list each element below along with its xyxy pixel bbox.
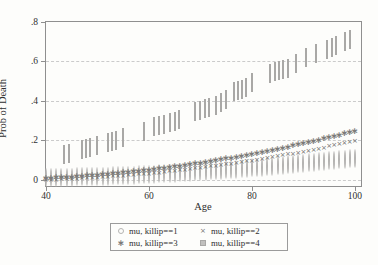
data-point xyxy=(274,63,276,81)
y-axis-title: Prob of Death xyxy=(0,69,8,149)
data-point xyxy=(96,137,98,155)
data-point xyxy=(287,60,289,78)
data-point xyxy=(323,153,325,171)
data-point xyxy=(344,33,346,51)
y-tick xyxy=(41,140,45,141)
data-point xyxy=(85,140,87,158)
data-point xyxy=(81,141,83,159)
data-point xyxy=(241,81,243,99)
data-point xyxy=(89,139,91,157)
y-tick xyxy=(41,101,45,102)
x-axis-title: Age xyxy=(110,201,296,212)
data-point xyxy=(122,129,124,147)
data-point xyxy=(153,118,155,136)
data-point xyxy=(204,100,206,118)
data-point xyxy=(333,152,335,170)
data-point xyxy=(158,117,160,135)
data-point xyxy=(174,113,176,131)
square-marker-icon xyxy=(199,240,207,246)
data-point xyxy=(115,132,117,150)
data-point xyxy=(302,155,304,173)
legend-label: mu, killip==4 xyxy=(211,238,260,249)
data-point xyxy=(305,49,307,67)
data-point xyxy=(349,31,351,49)
data-point xyxy=(225,91,227,109)
legend-item-killip2: × mu, killip==2 xyxy=(199,226,281,237)
data-point xyxy=(220,94,222,112)
data-point xyxy=(344,151,346,169)
data-point xyxy=(143,123,145,141)
data-point xyxy=(215,97,217,115)
y-tick-label: .2 xyxy=(18,135,38,145)
data-point xyxy=(233,83,235,101)
data-point xyxy=(318,153,320,171)
data-point xyxy=(328,152,330,170)
data-point: ∗ xyxy=(351,120,359,138)
x-marker-icon: × xyxy=(199,228,207,235)
data-point xyxy=(349,150,351,168)
data-point xyxy=(178,111,180,129)
data-point xyxy=(194,103,196,121)
circle-marker-icon xyxy=(117,228,125,234)
y-tick-label: .8 xyxy=(18,17,38,27)
y-tick xyxy=(41,22,45,23)
legend-item-killip1: mu, killip==1 xyxy=(117,226,199,237)
data-point xyxy=(68,145,70,163)
x-tick-label: 100 xyxy=(343,191,367,201)
y-tick xyxy=(41,180,45,181)
x-tick-label: 80 xyxy=(240,191,264,201)
plot-area: ××××××××××××××××××××××××××××××××××××××××… xyxy=(45,21,362,187)
data-point xyxy=(295,55,297,73)
data-point xyxy=(269,65,271,83)
data-point xyxy=(245,79,247,97)
data-point xyxy=(251,74,253,92)
legend-label: mu, killip==1 xyxy=(129,226,178,237)
legend-item-killip3: ∗ mu, killip==3 xyxy=(117,238,199,249)
data-point xyxy=(111,133,113,151)
data-point xyxy=(278,62,280,80)
data-point xyxy=(282,61,284,79)
data-point xyxy=(208,99,210,117)
x-tick-label: 60 xyxy=(137,191,161,201)
data-point xyxy=(354,150,356,168)
asterisk-marker-icon: ∗ xyxy=(117,239,125,248)
y-tick-label: .4 xyxy=(18,96,38,106)
data-point xyxy=(107,134,109,152)
data-point xyxy=(63,146,65,164)
legend-item-killip4: mu, killip==4 xyxy=(199,238,281,249)
data-point xyxy=(315,45,317,63)
y-tick xyxy=(41,61,45,62)
y-tick-label: .6 xyxy=(18,56,38,66)
data-point xyxy=(169,114,171,132)
x-tick-label: 40 xyxy=(34,191,58,201)
legend-label: mu, killip==2 xyxy=(211,226,260,237)
figure: ××××××××××××××××××××××××××××××××××××××××… xyxy=(0,0,378,265)
legend-label: mu, killip==3 xyxy=(129,238,178,249)
data-point xyxy=(331,39,333,57)
gridline xyxy=(46,61,361,62)
data-point xyxy=(326,41,328,59)
data-point xyxy=(335,37,337,55)
y-tick-label: 0 xyxy=(18,175,38,185)
legend: mu, killip==1 × mu, killip==2 ∗ mu, kill… xyxy=(110,223,288,251)
data-point xyxy=(163,116,165,134)
data-point xyxy=(338,151,340,169)
data-point xyxy=(308,154,310,172)
data-point xyxy=(313,154,315,172)
data-point xyxy=(199,102,201,120)
data-point xyxy=(237,82,239,100)
